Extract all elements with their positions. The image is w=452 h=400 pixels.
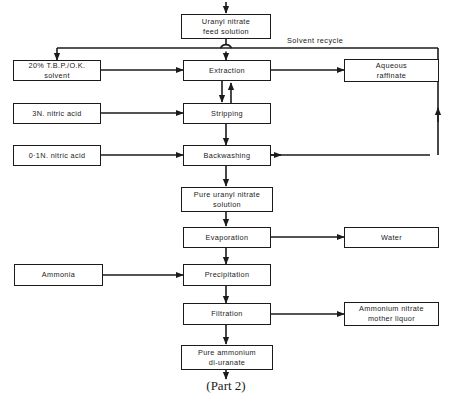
node-label: 3N. nitric acid — [32, 109, 81, 119]
node-label: Ammonium nitrate mother liquor — [359, 304, 424, 323]
node-label: Evaporation — [206, 233, 249, 243]
node-label: Uranyl nitrate feed solution — [202, 17, 250, 36]
node-nitric-acid-01n: 0·1N. nitric acid — [13, 145, 101, 166]
node-label: Backwashing — [204, 151, 251, 161]
node-pure-uranyl-nitrate: Pure uranyl nitrate solution — [181, 187, 273, 212]
node-precipitation: Precipitation — [183, 264, 271, 286]
node-extraction: Extraction — [183, 60, 271, 81]
node-ammonium-nitrate-mother-liquor: Ammonium nitrate mother liquor — [344, 302, 439, 326]
node-label: Precipitation — [205, 270, 250, 280]
node-label: Ammonia — [42, 270, 75, 280]
process-flow-diagram: Uranyl nitrate feed solution 20% T.B.P./… — [0, 0, 452, 400]
node-label: 0·1N. nitric acid — [29, 151, 86, 161]
node-feed-solution: Uranyl nitrate feed solution — [181, 14, 271, 39]
figure-caption: (Part 2) — [0, 378, 452, 394]
node-label: Water — [381, 233, 402, 243]
node-ammonia: Ammonia — [14, 264, 103, 286]
node-label: Filtration — [211, 309, 242, 319]
node-stripping: Stripping — [183, 103, 271, 124]
node-nitric-acid-3n: 3N. nitric acid — [13, 103, 101, 124]
node-label: Pure uranyl nitrate solution — [194, 190, 260, 209]
node-label: Stripping — [211, 109, 243, 119]
node-label: Extraction — [209, 66, 245, 76]
node-filtration: Filtration — [183, 303, 271, 325]
node-water: Water — [344, 227, 439, 248]
node-label: Aqueous raffinate — [376, 61, 407, 80]
node-aqueous-raffinate: Aqueous raffinate — [344, 59, 439, 82]
node-label: Pure ammonium di-uranate — [198, 348, 256, 367]
node-solvent: 20% T.B.P./O.K. solvent — [13, 60, 101, 81]
node-label: 20% T.B.P./O.K. solvent — [29, 61, 86, 80]
node-pure-ammonium-diuranate: Pure ammonium di-uranate — [181, 345, 273, 370]
node-evaporation: Evaporation — [183, 227, 271, 248]
edge-label-solvent-recycle: Solvent recycle — [287, 36, 343, 45]
node-backwashing: Backwashing — [183, 145, 271, 166]
